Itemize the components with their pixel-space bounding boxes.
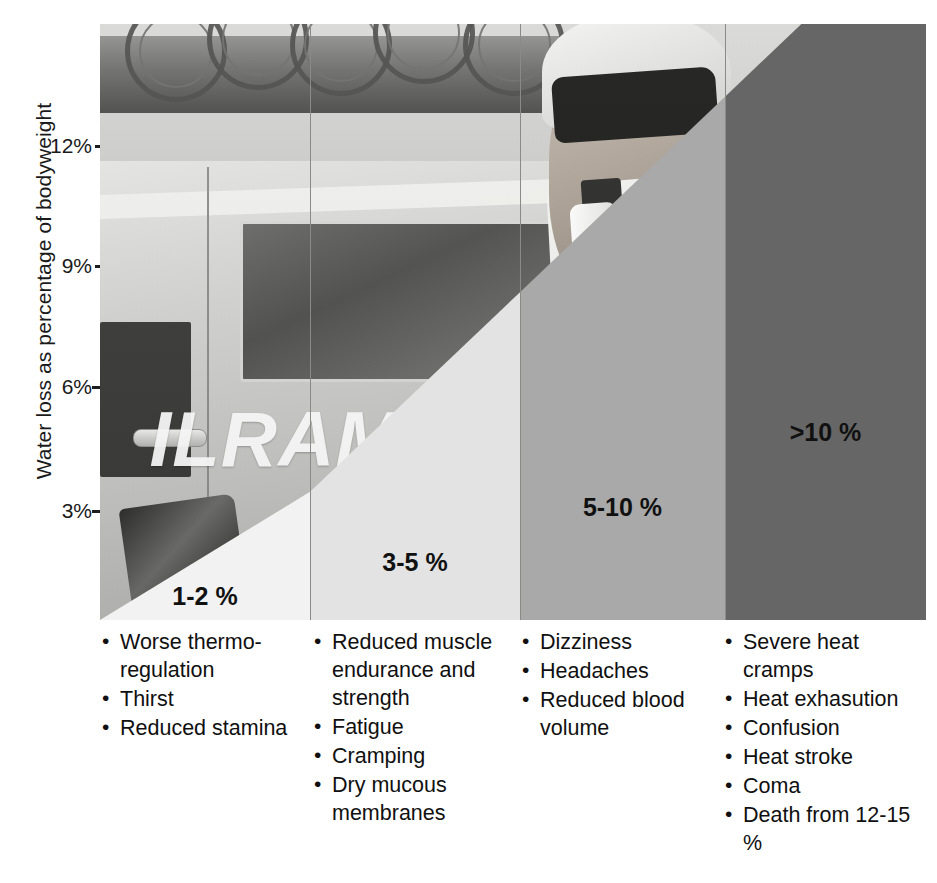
list-item: Dizziness [520, 628, 723, 656]
list-item: Thirst [100, 685, 312, 713]
list-item: Reduced stamina [100, 714, 312, 742]
list-item: Cramping [312, 742, 520, 770]
list-item: Heat exhasution [723, 685, 926, 713]
list-item: Reduced blood volume [520, 686, 723, 742]
y-tick-label-9: 9% [36, 255, 92, 276]
band-label-stage-4: >10 % [725, 418, 926, 447]
symptom-list: Dizziness Headaches Reduced blood volume [520, 628, 723, 742]
y-tick-label-6: 6% [36, 376, 92, 397]
list-item: Worse thermo-regulation [100, 628, 312, 684]
y-tick-label-3: 3% [36, 500, 92, 521]
band-label-stage-1: 1-2 % [100, 582, 310, 611]
band-separator [725, 24, 726, 620]
symptom-list: Reduced muscle endurance and strength Fa… [312, 628, 520, 827]
symptom-column-stage-3: Dizziness Headaches Reduced blood volume [520, 628, 723, 828]
band-separator [310, 24, 311, 620]
list-item: Death from 12-15 % [723, 801, 926, 857]
list-item: Coma [723, 772, 926, 800]
list-item: Reduced muscle endurance and strength [312, 628, 520, 712]
band-label-stage-2: 3-5 % [310, 548, 520, 577]
list-item: Dry mucous membranes [312, 771, 520, 827]
list-item: Severe heat cramps [723, 628, 926, 684]
figure-root: Water loss as percentage of bodyweight 1… [0, 0, 937, 883]
list-item: Fatigue [312, 713, 520, 741]
list-item: Confusion [723, 714, 926, 742]
symptom-column-stage-1: Worse thermo-regulation Thirst Reduced s… [100, 628, 312, 828]
symptom-column-stage-4: Severe heat cramps Heat exhasution Confu… [723, 628, 926, 828]
symptom-list: Worse thermo-regulation Thirst Reduced s… [100, 628, 312, 742]
band-stage-4[interactable] [725, 24, 926, 620]
band-separator [520, 24, 521, 620]
list-item: Headaches [520, 657, 723, 685]
y-tick-label-12: 12% [36, 135, 92, 156]
chart-plot-area: ILRAM [100, 24, 926, 620]
symptom-column-stage-2: Reduced muscle endurance and strength Fa… [312, 628, 520, 828]
band-label-stage-3: 5-10 % [520, 493, 725, 522]
symptom-columns: Worse thermo-regulation Thirst Reduced s… [100, 628, 926, 828]
list-item: Heat stroke [723, 743, 926, 771]
symptom-list: Severe heat cramps Heat exhasution Confu… [723, 628, 926, 857]
